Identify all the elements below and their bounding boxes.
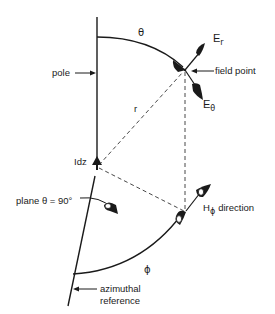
E-r-label: Er — [213, 32, 224, 47]
azimuthal-reference-label-line1: azimuthal — [100, 283, 141, 294]
azimuthal-pointer-arrow-icon — [73, 287, 97, 292]
field-point-label: field point — [215, 65, 256, 76]
field-point-pointer-arrow-icon — [191, 69, 214, 74]
dipole-field-diagram: θ Er field point Eθ pole r Idz plane θ =… — [0, 0, 275, 314]
H-phi-direction-label: Hϕdirection — [203, 202, 254, 216]
theta-arc — [97, 37, 183, 67]
phi-label: ϕ — [144, 264, 151, 275]
azimuthal-reference-label-line2: reference — [100, 295, 140, 306]
theta-label: θ — [138, 27, 144, 38]
plane-theta-90-arrow-icon — [80, 198, 118, 214]
E-r-arrow-icon — [185, 43, 205, 70]
E-theta-arrow-icon — [185, 70, 203, 100]
Idz-label: Idz — [74, 156, 87, 167]
plane-theta-90-label: plane θ = 90° — [16, 195, 73, 206]
pole-label: pole — [52, 67, 70, 78]
r-radius-dashed-line — [99, 72, 183, 165]
phi-arc-arrowhead-icon — [176, 211, 187, 225]
pole-pointer-arrow-icon — [75, 71, 96, 76]
r-label: r — [134, 103, 137, 114]
phi-arc — [73, 214, 182, 274]
E-theta-label: Eθ — [203, 98, 215, 113]
